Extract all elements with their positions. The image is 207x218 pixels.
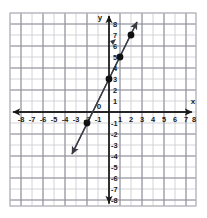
y-tick-label: -8 xyxy=(111,196,118,205)
y-tick-label: -2 xyxy=(111,130,118,139)
y-tick-label: -6 xyxy=(111,174,118,183)
x-tick-label: -1 xyxy=(95,115,102,124)
y-tick-label: 7 xyxy=(113,31,117,40)
x-tick-label: 2 xyxy=(129,115,133,124)
y-tick-label: -4 xyxy=(111,152,118,161)
y-tick-label: 3 xyxy=(113,75,117,84)
x-tick-label: 1 xyxy=(118,115,122,124)
data-point-1-5 xyxy=(117,54,124,61)
x-tick-label: -7 xyxy=(29,115,36,124)
x-axis-label: x xyxy=(191,97,196,106)
origin-label: 0 xyxy=(97,102,102,111)
x-tick-label: 7 xyxy=(184,115,188,124)
y-tick-label: 2 xyxy=(113,86,117,95)
coordinate-plane-graph: -8 -7 -6 -5 -4 -3 -2 -1 1 2 3 4 5 6 7 8 … xyxy=(0,0,207,218)
y-axis-label: y xyxy=(98,13,103,22)
x-tick-label: -6 xyxy=(40,115,47,124)
x-tick-label: 6 xyxy=(173,115,177,124)
data-point-0-3 xyxy=(106,76,113,83)
y-tick-label: -7 xyxy=(111,185,118,194)
y-tick-label: 5 xyxy=(113,53,117,62)
x-tick-label: -4 xyxy=(62,115,69,124)
x-tick-label: -8 xyxy=(18,115,25,124)
x-tick-label: 5 xyxy=(162,115,166,124)
y-tick-label: -3 xyxy=(111,141,118,150)
x-tick-label: -5 xyxy=(51,115,58,124)
y-tick-label: 1 xyxy=(113,97,117,106)
x-tick-label: 8 xyxy=(192,115,196,124)
x-tick-label: -2 xyxy=(84,115,91,124)
x-tick-label: 3 xyxy=(140,115,144,124)
graph-canvas: -8 -7 -6 -5 -4 -3 -2 -1 1 2 3 4 5 6 7 8 … xyxy=(0,0,207,218)
y-tick-label: -5 xyxy=(111,163,118,172)
y-tick-label: 8 xyxy=(113,20,117,29)
plot-background xyxy=(10,13,196,206)
y-tick-label: -1 xyxy=(111,119,118,128)
data-point-2-7 xyxy=(128,32,135,39)
y-tick-label: 6 xyxy=(113,42,117,51)
x-tick-label: -3 xyxy=(73,115,80,124)
